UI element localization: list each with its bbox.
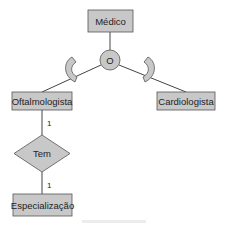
relationship-label: Tem bbox=[33, 148, 51, 159]
entity-label: Especialização bbox=[11, 200, 74, 211]
specialization-symbol: O bbox=[106, 55, 113, 66]
entity-especializacao[interactable]: Especialização bbox=[11, 194, 74, 216]
er-diagram: O Médico Oftalmologista Cardiologista Es… bbox=[0, 0, 225, 227]
watermark bbox=[82, 220, 146, 223]
entity-oftalmologista[interactable]: Oftalmologista bbox=[12, 92, 73, 110]
entity-medico[interactable]: Médico bbox=[88, 10, 133, 32]
entity-cardiologista[interactable]: Cardiologista bbox=[157, 92, 215, 110]
entity-label: Médico bbox=[95, 16, 126, 27]
cardinality-especializacao: 1 bbox=[47, 181, 52, 190]
entity-label: Cardiologista bbox=[158, 96, 214, 107]
subset-arc-left-icon bbox=[66, 57, 77, 82]
cardinality-oftalmologista: 1 bbox=[47, 119, 52, 128]
relationship-tem[interactable]: Tem bbox=[14, 135, 70, 172]
entity-label: Oftalmologista bbox=[12, 96, 73, 107]
specialization-circle[interactable]: O bbox=[100, 50, 120, 70]
